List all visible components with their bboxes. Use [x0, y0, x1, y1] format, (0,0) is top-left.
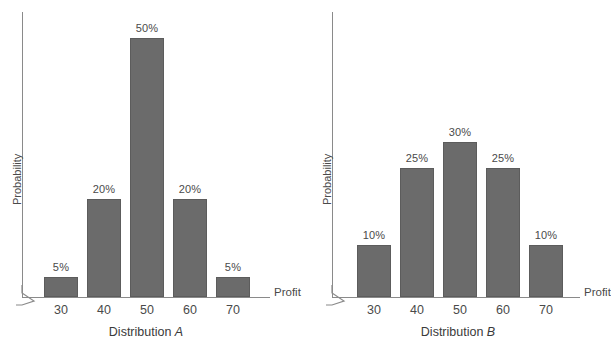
bar-a-40[interactable]: [87, 199, 121, 297]
panel-caption-a-prefix: Distribution: [109, 325, 175, 339]
y-axis-title-a: Probability: [11, 154, 23, 205]
bar-a-30[interactable]: [44, 277, 78, 297]
plot-area-b: Probability Profit 10% 25% 30% 25% 10% 3…: [302, 0, 604, 345]
chart-panel-distribution-b: Probability Profit 10% 25% 30% 25% 10% 3…: [302, 0, 604, 345]
bar-value-b-60: 25%: [486, 152, 520, 164]
x-tick-label-b-3: 60: [486, 303, 520, 317]
x-tick-label-a-0: 30: [44, 303, 78, 317]
x-axis-line-b: [332, 297, 580, 298]
bar-value-b-40: 25%: [400, 152, 434, 164]
bar-value-a-70: 5%: [216, 261, 250, 273]
plot-area-a: Probability Profit 5% 20% 50% 20% 5% 30 …: [0, 0, 302, 345]
bar-b-30[interactable]: [357, 245, 391, 297]
x-tick-label-b-0: 30: [357, 303, 391, 317]
bar-value-b-30: 10%: [357, 229, 391, 241]
panel-caption-a: Distribution A: [0, 325, 297, 339]
axis-break-zigzag-a: [14, 283, 40, 307]
bar-b-50[interactable]: [443, 142, 477, 297]
bar-value-b-50: 30%: [443, 126, 477, 138]
x-tick-label-a-2: 50: [130, 303, 164, 317]
x-tick-label-a-1: 40: [87, 303, 121, 317]
x-axis-title-a: Profit: [274, 286, 301, 298]
panel-caption-b: Distribution B: [307, 325, 609, 339]
bar-value-a-40: 20%: [87, 183, 121, 195]
axis-break-zigzag-b: [324, 283, 350, 307]
bar-b-40[interactable]: [400, 168, 434, 297]
bar-value-a-30: 5%: [44, 261, 78, 273]
panel-caption-a-letter: A: [175, 325, 183, 339]
x-tick-label-b-1: 40: [400, 303, 434, 317]
panel-caption-b-letter: B: [487, 325, 495, 339]
x-tick-label-a-4: 70: [216, 303, 250, 317]
panel-caption-b-prefix: Distribution: [421, 325, 487, 339]
bar-b-70[interactable]: [529, 245, 563, 297]
x-tick-label-b-2: 50: [443, 303, 477, 317]
x-tick-label-b-4: 70: [529, 303, 563, 317]
x-tick-label-a-3: 60: [173, 303, 207, 317]
x-axis-title-b: Profit: [584, 286, 611, 298]
chart-panel-distribution-a: Probability Profit 5% 20% 50% 20% 5% 30 …: [0, 0, 302, 345]
bar-b-60[interactable]: [486, 168, 520, 297]
bar-value-a-50: 50%: [130, 22, 164, 34]
bar-a-70[interactable]: [216, 277, 250, 297]
y-axis-title-b: Probability: [321, 154, 333, 205]
bar-a-60[interactable]: [173, 199, 207, 297]
x-axis-line-a: [22, 297, 270, 298]
bar-value-a-60: 20%: [173, 183, 207, 195]
bar-value-b-70: 10%: [529, 229, 563, 241]
bar-a-50[interactable]: [130, 38, 164, 297]
